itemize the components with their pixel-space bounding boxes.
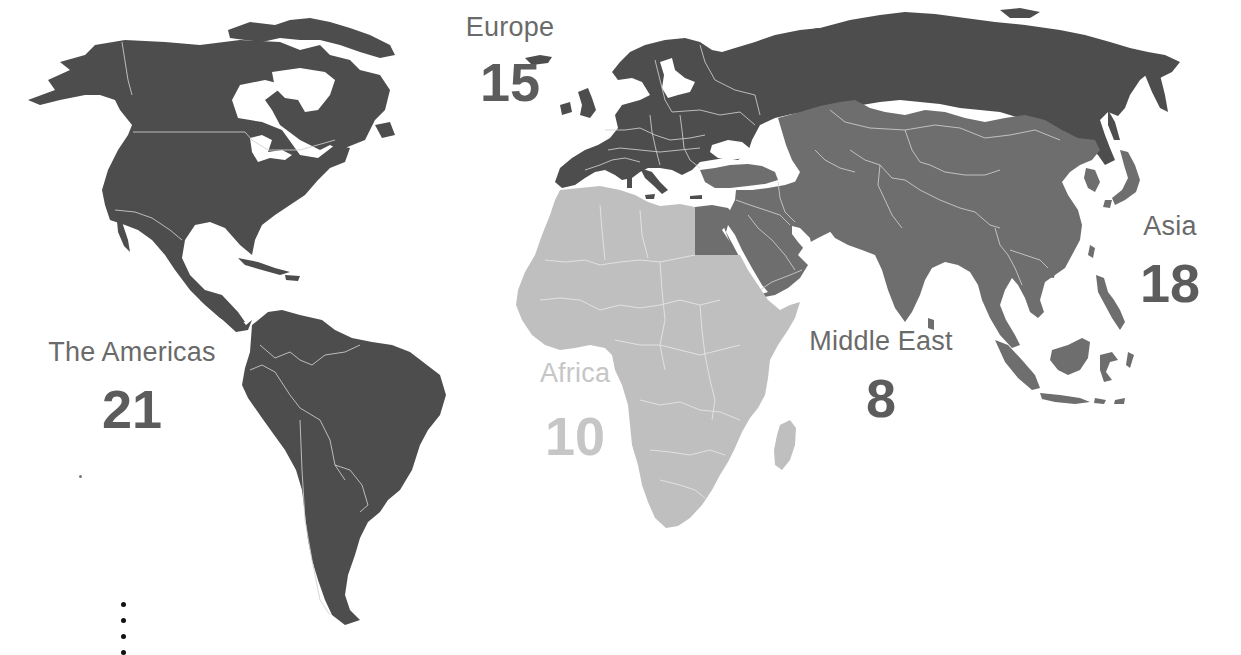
- dot: [121, 618, 126, 623]
- region-value-africa: 10: [525, 409, 625, 463]
- region-value-americas: 21: [36, 382, 228, 436]
- dot: [121, 602, 126, 607]
- region-name-africa: Africa: [525, 358, 625, 389]
- speck-dot: [79, 475, 82, 478]
- region-name-americas: The Americas: [36, 337, 228, 368]
- label-middle-east: Middle East 8: [796, 326, 966, 425]
- dot: [121, 650, 126, 655]
- region-value-middle-east: 8: [796, 371, 966, 425]
- dot: [121, 634, 126, 639]
- region-value-europe: 15: [455, 55, 565, 109]
- region-name-asia: Asia: [1120, 211, 1220, 242]
- region-name-europe: Europe: [455, 12, 565, 43]
- region-name-middle-east: Middle East: [796, 326, 966, 357]
- label-asia: Asia 18: [1120, 211, 1220, 310]
- label-africa: Africa 10: [525, 358, 625, 463]
- region-value-asia: 18: [1120, 256, 1220, 310]
- region-americas[interactable]: [28, 18, 446, 625]
- world-map: [0, 0, 1241, 655]
- label-americas: The Americas 21: [36, 337, 228, 436]
- label-europe: Europe 15: [455, 12, 565, 109]
- dotted-marker: [121, 602, 127, 655]
